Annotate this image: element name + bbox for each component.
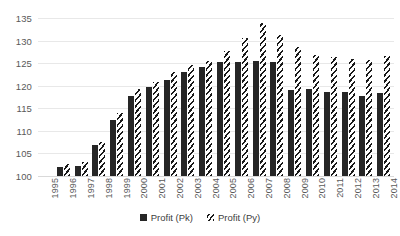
solid-square-icon bbox=[140, 214, 147, 221]
y-axis-tick-label: 110 bbox=[17, 125, 32, 136]
bar-py bbox=[384, 56, 390, 176]
x-axis-tick-label: 2004 bbox=[211, 178, 221, 198]
bar-group bbox=[358, 18, 376, 176]
x-axis-tick-label: 1997 bbox=[86, 178, 96, 198]
bar-py bbox=[117, 113, 123, 176]
bar-group bbox=[145, 18, 163, 176]
bar-py bbox=[206, 61, 212, 176]
bar-pk bbox=[306, 89, 312, 176]
bar-pk bbox=[164, 80, 170, 176]
bar-group bbox=[269, 18, 287, 176]
bar-py bbox=[295, 47, 301, 176]
bar-py bbox=[260, 23, 266, 176]
x-axis-tick-label: 2001 bbox=[157, 178, 167, 198]
bar-group bbox=[323, 18, 341, 176]
bar-group bbox=[127, 18, 145, 176]
bar-pk bbox=[75, 166, 81, 176]
bar-group bbox=[38, 18, 56, 176]
bar-pk bbox=[110, 120, 116, 176]
legend-item-py[interactable]: Profit (Py) bbox=[207, 212, 260, 223]
bar-pk bbox=[199, 67, 205, 176]
x-axis-tick-label: 1999 bbox=[122, 178, 132, 198]
x-axis-tick-label: 1996 bbox=[68, 178, 78, 198]
bar-group bbox=[252, 18, 270, 176]
bar-group bbox=[109, 18, 127, 176]
bar-pk bbox=[181, 72, 187, 176]
bar-pk bbox=[377, 93, 383, 176]
bar-pk bbox=[217, 62, 223, 176]
bar-py bbox=[99, 142, 105, 176]
bar-py bbox=[366, 60, 372, 176]
x-axis-tick-label: 2003 bbox=[193, 178, 203, 198]
bar-pk bbox=[288, 90, 294, 176]
x-axis-tick-label: 2012 bbox=[353, 178, 363, 198]
bar-py bbox=[313, 55, 319, 176]
bar-group bbox=[216, 18, 234, 176]
hatched-square-icon bbox=[207, 214, 214, 221]
gridline bbox=[38, 176, 394, 177]
x-axis-tick-label: 1995 bbox=[50, 178, 60, 198]
legend-label-pk: Profit (Pk) bbox=[151, 212, 193, 223]
y-axis-tick-label: 130 bbox=[16, 35, 32, 46]
bar-group bbox=[287, 18, 305, 176]
bar-py bbox=[153, 82, 159, 176]
bar-py bbox=[277, 35, 283, 176]
bar-py bbox=[188, 65, 194, 176]
bar-group bbox=[234, 18, 252, 176]
x-axis-tick-label: 2000 bbox=[139, 178, 149, 198]
bar-groups bbox=[38, 18, 394, 176]
x-axis-tick-label: 2007 bbox=[264, 178, 274, 198]
bar-pk bbox=[359, 96, 365, 176]
x-axis-tick-label: 2006 bbox=[246, 178, 256, 198]
y-axis-tick-label: 135 bbox=[16, 13, 32, 24]
bar-pk bbox=[253, 61, 259, 176]
x-axis-tick-label: 2008 bbox=[282, 178, 292, 198]
bar-group bbox=[163, 18, 181, 176]
y-axis-tick-label: 125 bbox=[16, 58, 32, 69]
y-axis-tick-label: 115 bbox=[17, 103, 32, 114]
bar-py bbox=[82, 162, 88, 176]
bar-py bbox=[349, 59, 355, 176]
bar-py bbox=[331, 57, 337, 176]
x-axis-tick-label: 2014 bbox=[389, 178, 399, 198]
x-axis-tick-label: 2009 bbox=[300, 178, 310, 198]
legend-label-py: Profit (Py) bbox=[218, 212, 260, 223]
bar-py bbox=[64, 164, 70, 176]
bar-group bbox=[180, 18, 198, 176]
y-axis-tick-label: 105 bbox=[16, 148, 32, 159]
bar-group bbox=[376, 18, 394, 176]
plot-area bbox=[38, 18, 394, 176]
bar-pk bbox=[92, 145, 98, 176]
bar-group bbox=[198, 18, 216, 176]
bar-group bbox=[91, 18, 109, 176]
bar-py bbox=[242, 38, 248, 176]
x-axis-tick-label: 2010 bbox=[317, 178, 327, 198]
profit-bar-chart: 100105110115120125130135 199519961997199… bbox=[0, 0, 400, 236]
chart-legend: Profit (Pk) Profit (Py) bbox=[0, 212, 400, 223]
bar-group bbox=[56, 18, 74, 176]
bar-pk bbox=[342, 92, 348, 176]
x-axis-tick-label: 1998 bbox=[104, 178, 114, 198]
x-axis-tick-label: 2002 bbox=[175, 178, 185, 198]
x-axis-tick-label: 2013 bbox=[371, 178, 381, 198]
bar-pk bbox=[128, 96, 134, 176]
x-axis-tick-label: 2005 bbox=[228, 178, 238, 198]
bar-pk bbox=[57, 167, 63, 176]
bar-group bbox=[341, 18, 359, 176]
bar-py bbox=[224, 51, 230, 176]
x-axis-tick-label: 2011 bbox=[335, 178, 345, 198]
y-axis-labels: 100105110115120125130135 bbox=[0, 0, 38, 236]
y-axis-tick-label: 100 bbox=[16, 171, 32, 182]
bar-pk bbox=[324, 92, 330, 176]
bar-group bbox=[305, 18, 323, 176]
bar-group bbox=[74, 18, 92, 176]
bar-pk bbox=[270, 62, 276, 176]
bar-pk bbox=[235, 62, 241, 176]
legend-item-pk[interactable]: Profit (Pk) bbox=[140, 212, 193, 223]
bar-pk bbox=[146, 87, 152, 176]
bar-py bbox=[171, 72, 177, 176]
x-axis-labels: 1995199619971998199920002001200220032004… bbox=[38, 178, 394, 212]
y-axis-tick-label: 120 bbox=[16, 80, 32, 91]
bar-py bbox=[135, 89, 141, 176]
